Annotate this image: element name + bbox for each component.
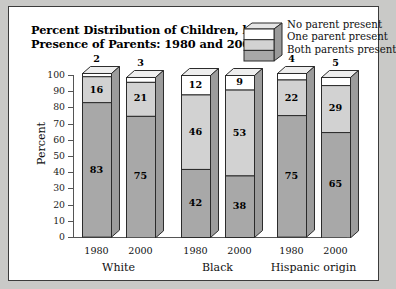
bar-stack: 2175 [126, 70, 155, 237]
bar-segment-value: 16 [82, 84, 111, 95]
bar-segment-value: 22 [277, 92, 306, 103]
bar-segment-value: 46 [181, 126, 210, 137]
y-axis-tick-label: 20 [39, 199, 65, 210]
bar-3d-shape [321, 70, 359, 238]
y-axis-tick-label: 30 [39, 182, 65, 193]
bar-top-value: 5 [321, 57, 350, 68]
bar-segment-value: 53 [225, 127, 254, 138]
bar-stack: 2275 [277, 66, 306, 237]
bar-segment-value: 21 [126, 92, 155, 103]
y-axis-line [73, 75, 74, 238]
y-axis-tick [68, 140, 73, 141]
y-axis-tick [68, 156, 73, 157]
bar-segment-value: 38 [225, 200, 254, 211]
bar-segment-value: 12 [181, 79, 210, 90]
y-axis-tick-label: 50 [39, 150, 65, 161]
y-axis-tick [68, 221, 73, 222]
y-axis-tick-label: 40 [39, 166, 65, 177]
y-axis-tick [68, 91, 73, 92]
bar-segment-value: 29 [321, 102, 350, 113]
bar-stack: 2965 [321, 70, 350, 237]
x-axis-year-label: 1980 [174, 245, 218, 256]
x-axis-year-label: 2000 [119, 245, 163, 256]
y-axis-tick-label: 0 [39, 231, 65, 242]
y-axis-tick [68, 124, 73, 125]
x-axis-year-label: 1980 [270, 245, 314, 256]
bar-segment-value: 42 [181, 197, 210, 208]
bar-stack: 124642 [181, 68, 210, 237]
bar-stack: 95338 [225, 68, 254, 237]
y-axis-tick-label: 10 [39, 215, 65, 226]
chart-figure: Percent Distribution of Children, by Pre… [8, 6, 379, 281]
y-axis-tick-label: 60 [39, 134, 65, 145]
x-axis-year-label: 1980 [75, 245, 119, 256]
x-axis-year-label: 2000 [218, 245, 262, 256]
bar-segment-value: 9 [225, 76, 254, 87]
bar-segment-value: 75 [277, 170, 306, 181]
bar-stack: 1683 [82, 66, 111, 237]
x-axis-year-label: 2000 [314, 245, 358, 256]
bar-segment-value: 83 [82, 164, 111, 175]
bar-top-value: 2 [82, 53, 111, 64]
bar-3d-shape [181, 68, 219, 238]
bar-segment-value: 75 [126, 170, 155, 181]
y-axis-tick [68, 205, 73, 206]
y-axis-tick-label: 90 [39, 85, 65, 96]
y-axis-tick-label: 100 [39, 69, 65, 80]
bar-segment-value: 65 [321, 178, 350, 189]
y-axis-tick [68, 107, 73, 108]
bar-top-value: 4 [277, 53, 306, 64]
y-axis-tick [68, 75, 73, 76]
bar-top-value: 3 [126, 57, 155, 68]
x-axis-group-label: Hispanic origin [254, 261, 374, 274]
y-axis-tick-label: 80 [39, 101, 65, 112]
bar-3d-shape [225, 68, 263, 238]
y-axis-tick [68, 237, 73, 238]
y-axis-tick [68, 172, 73, 173]
y-axis-tick-label: 70 [39, 118, 65, 129]
y-axis-tick [68, 188, 73, 189]
plot-area: Percent 1009080706050403020100 216833217… [9, 7, 380, 280]
